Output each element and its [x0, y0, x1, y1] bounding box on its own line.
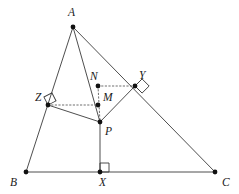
vertex-label-a: A — [68, 7, 75, 19]
vertex-label-p: P — [105, 126, 112, 138]
vertex-dot-p — [98, 120, 103, 125]
right-angle-markers-group — [44, 79, 149, 172]
side-AC — [73, 27, 215, 172]
vertex-label-m: M — [103, 92, 113, 104]
geometry-figure: ABCXPMNYZ — [0, 0, 239, 194]
vertex-label-y: Y — [139, 70, 145, 82]
vertex-label-b: B — [10, 177, 17, 189]
vertex-dot-m — [96, 103, 101, 108]
vertex-dots-group — [24, 25, 218, 175]
vertex-dot-c — [213, 170, 218, 175]
vertex-label-c: C — [222, 177, 230, 189]
vertex-dot-n — [96, 84, 101, 89]
vertex-dot-a — [71, 25, 76, 30]
side-AB — [26, 27, 73, 172]
solid-lines-group — [26, 27, 215, 172]
vertex-dot-z — [46, 103, 51, 108]
vertex-label-n: N — [90, 71, 98, 83]
vertex-label-z: Z — [35, 92, 41, 104]
vertex-dot-y — [133, 84, 138, 89]
segment-ZP — [48, 105, 100, 122]
vertex-dot-b — [24, 170, 29, 175]
vertex-label-x: X — [99, 177, 106, 189]
vertex-dot-x — [98, 170, 103, 175]
